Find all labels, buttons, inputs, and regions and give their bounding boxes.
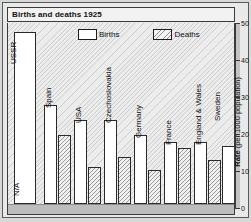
category-label-sweden: Sweden — [213, 92, 222, 121]
bar-births-england-wales — [194, 142, 207, 204]
y-axis-tick-label-50: 50 — [241, 20, 249, 27]
legend-swatch-deaths-icon — [153, 29, 172, 40]
bar-group-spain: Spain — [44, 23, 72, 214]
bar-deaths-england-wales — [208, 160, 221, 204]
y-axis-title-bold: Rate — [233, 150, 242, 166]
category-label-czechoslovakia: Czechoslovakia — [104, 67, 113, 123]
category-label-germany: Germany — [134, 105, 143, 138]
legend-label-deaths: Deaths — [174, 30, 199, 39]
chart-legend: Births Deaths — [78, 29, 200, 40]
legend-swatch-births-icon — [78, 29, 97, 40]
bar-deaths-germany — [148, 170, 161, 204]
y-axis-tick-label-0: 0 — [241, 205, 245, 212]
category-label-france: France — [164, 120, 173, 145]
chart-floor-band — [8, 204, 235, 214]
y-axis-tick-label-10: 10 — [241, 168, 249, 175]
bar-deaths-usa — [88, 167, 101, 204]
y-axis-tick-40 — [235, 60, 240, 61]
bar-group-czechoslovakia: Czechoslovakia — [104, 23, 132, 214]
legend-label-births: Births — [99, 30, 119, 39]
na-annotation-label: N/A — [12, 183, 21, 196]
bar-births-germany — [134, 135, 147, 204]
category-label-ussr: USSR — [9, 42, 18, 64]
chart-title-bar: Births and deaths 1925 — [7, 7, 235, 22]
bar-deaths-czechoslovakia — [118, 157, 131, 204]
chart-window-frame: Births and deaths 1925 Births Deaths USS… — [2, 2, 249, 218]
bar-births-france — [164, 142, 177, 204]
y-axis-tick-50 — [235, 23, 240, 24]
y-axis-tick-label-30: 30 — [241, 94, 249, 101]
plot-area: Births Deaths USSR N/A Spai — [7, 23, 235, 215]
category-label-england-wales: England & Wales — [194, 84, 203, 145]
bar-group-germany: Germany — [134, 23, 162, 214]
category-label-spain: Spain — [44, 88, 53, 108]
bar-group-usa: USA — [74, 23, 102, 214]
y-axis-tick-label-20: 20 — [241, 131, 249, 138]
y-axis-tick-label-40: 40 — [241, 57, 249, 64]
legend-item-deaths: Deaths — [153, 29, 199, 40]
bar-births-usa — [74, 120, 87, 204]
page-title: Births and deaths 1925 — [8, 10, 102, 19]
bar-group-france: France — [164, 23, 192, 214]
category-label-usa: USA — [74, 107, 83, 123]
y-axis-title-unit: (per 1000 population) — [233, 77, 242, 150]
bar-series-container: USSR N/A Spain USA — [8, 23, 235, 214]
y-axis: 50 40 30 20 10 0 Rate (per 1000 populati… — [235, 7, 250, 215]
bar-births-czechoslovakia — [104, 120, 117, 204]
y-axis-tick-0 — [235, 208, 240, 209]
bar-deaths-spain — [58, 135, 71, 204]
y-axis-tick-10 — [235, 171, 240, 172]
bar-group-ussr: USSR N/A — [12, 23, 40, 214]
chart-screenshot: Births and deaths 1925 Births Deaths USS… — [0, 0, 251, 222]
bar-deaths-france — [178, 148, 191, 204]
legend-item-births: Births — [78, 29, 119, 40]
y-axis-title: Rate (per 1000 population) — [233, 77, 242, 167]
bar-births-spain — [44, 105, 57, 204]
